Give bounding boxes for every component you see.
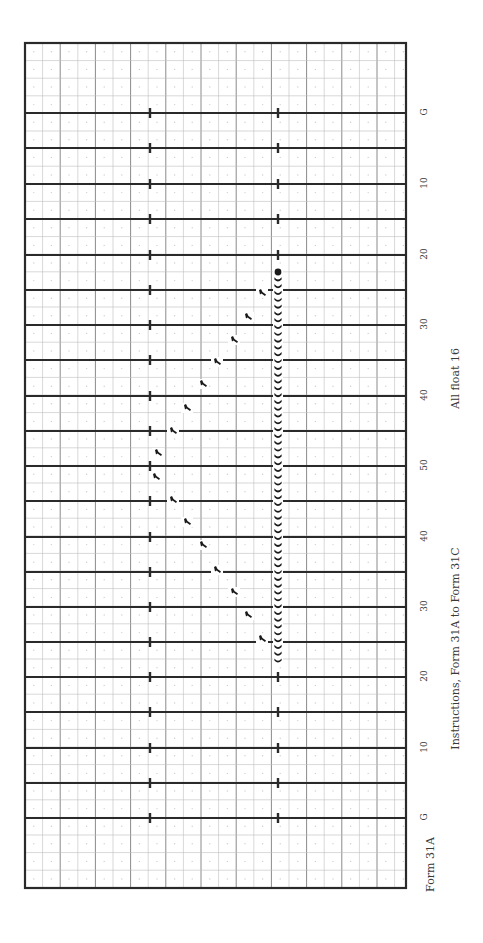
grid-dot — [227, 403, 228, 404]
grid-dot — [227, 614, 228, 615]
grid-dot — [227, 790, 228, 791]
grid-dot — [139, 51, 140, 52]
grid-dot — [227, 315, 228, 316]
grid-dot — [33, 720, 34, 721]
grid-dot — [68, 403, 69, 404]
grid-dot — [86, 122, 87, 123]
grid-dot — [244, 544, 245, 545]
grid-dot — [403, 861, 404, 862]
grid-dot — [156, 227, 157, 228]
grid-dot — [121, 544, 122, 545]
grid-dot — [368, 51, 369, 52]
grid-dot — [33, 579, 34, 580]
grid-dot — [121, 350, 122, 351]
grid-dot — [403, 210, 404, 211]
grid-dot — [385, 878, 386, 879]
instructions-caption: Instructions, Form 31A to Form 31C — [449, 519, 462, 779]
grid-dot — [244, 562, 245, 563]
grid-dot — [139, 509, 140, 510]
grid-dot — [86, 526, 87, 527]
grid-dot — [139, 685, 140, 686]
grid-dot — [139, 861, 140, 862]
grid-dot — [174, 702, 175, 703]
grid-dot — [368, 755, 369, 756]
grid-dot — [332, 122, 333, 123]
grid-dot — [350, 245, 351, 246]
grid-dot — [156, 773, 157, 774]
grid-dot — [68, 702, 69, 703]
grid-dot — [104, 861, 105, 862]
grid-dot — [209, 315, 210, 316]
yard-label: 10 — [419, 173, 429, 193]
grid-dot — [403, 632, 404, 633]
grid-dot — [209, 227, 210, 228]
grid-dot — [86, 210, 87, 211]
grid-dot — [227, 227, 228, 228]
grid-dot — [192, 51, 193, 52]
grid-dot — [244, 350, 245, 351]
grid-dot — [174, 509, 175, 510]
grid-dot — [227, 526, 228, 527]
grid-dot — [51, 650, 52, 651]
grid-dot — [262, 333, 263, 334]
grid-dot — [368, 315, 369, 316]
grid-dot — [262, 315, 263, 316]
grid-dot — [86, 104, 87, 105]
grid-dot — [104, 192, 105, 193]
grid-dot — [86, 509, 87, 510]
grid-dot — [227, 333, 228, 334]
grid-dot — [244, 438, 245, 439]
grid-dot — [350, 262, 351, 263]
grid-dot — [244, 403, 245, 404]
grid-dot — [350, 720, 351, 721]
grid-dot — [315, 122, 316, 123]
grid-dot — [227, 808, 228, 809]
grid-dot — [209, 368, 210, 369]
grid-dot — [227, 174, 228, 175]
grid-dot — [280, 122, 281, 123]
grid-dot — [315, 562, 316, 563]
grid-dot — [350, 157, 351, 158]
grid-dot — [174, 69, 175, 70]
grid-dot — [350, 491, 351, 492]
grid-dot — [174, 474, 175, 475]
grid-dot — [174, 350, 175, 351]
grid-dot — [104, 298, 105, 299]
grid-dot — [86, 544, 87, 545]
grid-dot — [156, 826, 157, 827]
grid-dot — [350, 315, 351, 316]
grid-dot — [403, 808, 404, 809]
grid-dot — [350, 526, 351, 527]
grid-dot — [104, 491, 105, 492]
grid-dot — [139, 350, 140, 351]
grid-dot — [51, 333, 52, 334]
grid-dot — [51, 491, 52, 492]
grid-dot — [262, 139, 263, 140]
grid-dot — [156, 755, 157, 756]
grid-dot — [244, 861, 245, 862]
grid-dot — [139, 702, 140, 703]
grid-dot — [33, 597, 34, 598]
grid-dot — [332, 315, 333, 316]
grid-dot — [315, 386, 316, 387]
grid-dot — [104, 614, 105, 615]
grid-dot — [385, 421, 386, 422]
grid-dot — [121, 650, 122, 651]
grid-dot — [104, 456, 105, 457]
grid-dot — [139, 667, 140, 668]
grid-dot — [139, 826, 140, 827]
grid-dot — [403, 333, 404, 334]
grid-dot — [403, 773, 404, 774]
grid-dot — [385, 157, 386, 158]
grid-dot — [209, 650, 210, 651]
grid-dot — [244, 386, 245, 387]
grid-dot — [332, 826, 333, 827]
grid-dot — [209, 456, 210, 457]
grid-dot — [156, 368, 157, 369]
grid-dot — [244, 262, 245, 263]
grid-dot — [280, 861, 281, 862]
grid-dot — [315, 315, 316, 316]
grid-dot — [350, 104, 351, 105]
grid-dot — [156, 738, 157, 739]
grid-dot — [51, 720, 52, 721]
